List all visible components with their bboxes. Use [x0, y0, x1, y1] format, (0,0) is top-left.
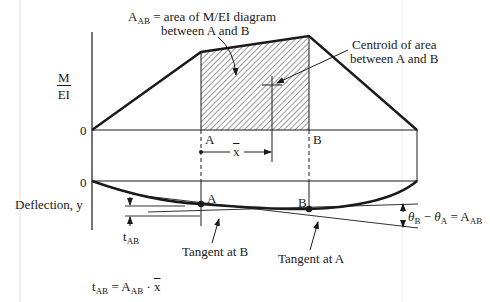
point-b-label-top: B — [313, 133, 322, 146]
area-label-main: A — [128, 9, 137, 24]
zero-label-top: 0 — [80, 124, 87, 137]
tangent-b-leader — [212, 219, 219, 243]
area-label: AAB = area of M/EI diagram — [128, 10, 276, 23]
xbar-label: x — [233, 145, 240, 158]
m-ei-numerator: M — [57, 71, 71, 86]
area-label-line2: between A and B — [161, 24, 249, 37]
area-label-rest: = area of M/EI diagram — [150, 9, 276, 24]
theta-a-symbol: θ — [434, 209, 440, 224]
tangent-at-b-label: Tangent at B — [182, 245, 248, 258]
theta-eq: = A — [447, 209, 470, 224]
theta-difference-label: θB − θA = AAB — [408, 210, 482, 223]
centroid-label-line2: between A and B — [350, 52, 438, 65]
point-a-label-curve: A — [207, 192, 216, 205]
formula-dot: · — [143, 279, 154, 294]
tab-label: tAB — [123, 230, 139, 243]
theta-a-sub: A — [441, 216, 448, 226]
deflection-curve — [92, 181, 417, 209]
point-a-marker — [198, 201, 204, 207]
formula-a-sub: AB — [131, 286, 144, 296]
zero-label-bottom: 0 — [80, 176, 87, 189]
theta-minus: − — [420, 209, 434, 224]
tab-formula: tAB = AAB · x — [92, 280, 161, 293]
tangent-at-a-label: Tangent at A — [278, 252, 344, 265]
theta-b-sub: B — [414, 216, 420, 226]
m-ei-axis-label: M EI — [57, 71, 71, 101]
m-ei-denominator: EI — [57, 86, 71, 101]
tab-label-sub: AB — [127, 236, 140, 246]
point-b-label-curve: B — [298, 196, 307, 209]
moment-area-diagram: AAB = area of M/EI diagram between A and… — [0, 0, 490, 302]
tangent-a-leader — [310, 222, 318, 250]
tangent-at-b-line — [148, 204, 418, 212]
formula-t-sub: AB — [96, 286, 109, 296]
formula-eq: = A — [108, 279, 131, 294]
point-a-label-top: A — [205, 133, 214, 146]
theta-eq-sub: AB — [470, 216, 483, 226]
area-label-sub: AB — [137, 16, 150, 26]
deflection-axis-label: Deflection, y — [15, 198, 83, 211]
formula-xbar: x — [154, 279, 161, 294]
centroid-label-line1: Centroid of area — [352, 38, 436, 51]
